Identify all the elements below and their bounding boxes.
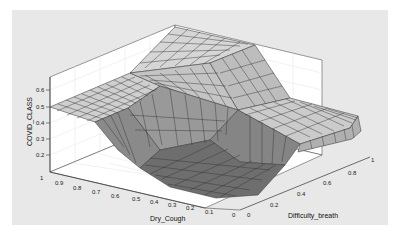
x-tick-0.7: 0.7 xyxy=(92,189,101,195)
z-tick-0.2: 0.2 xyxy=(36,152,45,158)
x-tick-0.6: 0.6 xyxy=(111,193,120,199)
x-tick-0.3: 0.3 xyxy=(168,202,177,208)
x-tick-0.9: 0.9 xyxy=(55,180,64,186)
y-axis-label: Difficulty_breath xyxy=(288,212,338,220)
x-axis-label: Dry_Cough xyxy=(150,215,186,223)
z-tick-0.5: 0.5 xyxy=(36,104,45,110)
x-tick-0.8: 0.8 xyxy=(73,185,82,191)
y-tick-0.8: 0.8 xyxy=(348,170,357,176)
y-tick-0.6: 0.6 xyxy=(323,180,332,186)
y-tick-0.4: 0.4 xyxy=(297,191,306,197)
z-tick-0.6: 0.6 xyxy=(36,87,45,93)
x-tick-0.5: 0.5 xyxy=(132,196,141,202)
surface-plot: 0.6 0.5 0.4 0.3 0.2 COVID_CLASS 1 0.9 0.… xyxy=(0,0,412,241)
z-tick-0.4: 0.4 xyxy=(36,120,45,126)
z-axis-label: COVID_CLASS xyxy=(26,97,34,146)
x-tick-0.1: 0.1 xyxy=(205,209,214,215)
x-tick-0: 0 xyxy=(232,212,236,218)
z-tick-0.3: 0.3 xyxy=(36,136,45,142)
z-axis-ticks xyxy=(46,90,50,155)
x-tick-0.2: 0.2 xyxy=(186,205,195,211)
y-tick-1: 1 xyxy=(371,157,375,163)
y-tick-0: 0 xyxy=(247,212,251,218)
x-tick-0.4: 0.4 xyxy=(150,199,159,205)
y-tick-0.2: 0.2 xyxy=(270,202,279,208)
x-tick-1: 1 xyxy=(40,175,44,181)
